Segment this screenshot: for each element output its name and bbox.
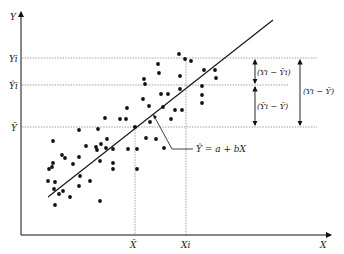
xbar-tick-label: X̄ xyxy=(129,239,137,250)
regression-equation-label: Ŷ = a + bX xyxy=(196,143,247,154)
diagram-canvas: Y X Yi Ŷi Ȳ X̄ Xi Ŷ = a + bX (Yi − Ŷi) (… xyxy=(0,0,344,254)
guide-lines xyxy=(22,58,317,235)
x-axis-label: X xyxy=(319,240,327,250)
regression-diagram: Y X Yi Ŷi Ȳ X̄ Xi Ŷ = a + bX (Yi − Ŷi) (… xyxy=(0,0,344,254)
axes xyxy=(21,12,331,235)
centroid-point xyxy=(133,125,137,129)
total-label: (Yi − Ȳ) xyxy=(303,87,334,96)
ybar-tick-label: Ȳ xyxy=(11,122,18,133)
xi-tick-label: Xi xyxy=(180,240,190,250)
regression-line xyxy=(48,20,273,197)
explained-label: (Ŷi − Ȳ) xyxy=(257,102,288,111)
yi-tick-label: Yi xyxy=(9,54,18,64)
data-points xyxy=(46,52,218,207)
residual-label: (Yi − Ŷi) xyxy=(257,68,291,77)
y-axis-label: Y xyxy=(10,12,17,22)
yhat-i-tick-label: Ŷi xyxy=(9,80,18,91)
pointer-arrowhead-icon xyxy=(153,114,157,119)
regression-label-pointer xyxy=(154,116,193,149)
